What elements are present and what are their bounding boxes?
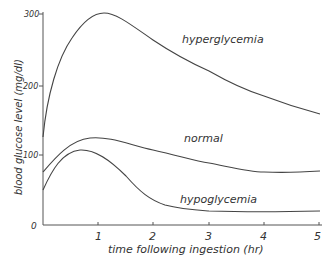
y-axis-title: blood glucose level (mg/dl) — [13, 59, 24, 195]
y-tick-200: 200 — [23, 82, 38, 91]
glucose-chart: 300 200 100 0 1 2 3 4 5 time following i… — [0, 0, 333, 268]
x-tick-4: 4 — [260, 230, 267, 243]
origin-label: 0 — [31, 221, 37, 231]
x-axis-title: time following ingestion (hr) — [108, 243, 263, 256]
normal-curve — [43, 138, 320, 173]
x-tick-5: 5 — [314, 230, 321, 243]
hyperglycemia-curve — [43, 13, 320, 137]
y-ticks — [39, 14, 43, 155]
x-tick-2: 2 — [149, 230, 156, 243]
y-tick-100: 100 — [23, 151, 38, 160]
hyperglycemia-label: hyperglycemia — [182, 33, 264, 46]
y-tick-300: 300 — [24, 10, 39, 19]
hypoglycemia-label: hypoglycemia — [180, 193, 257, 206]
normal-label: normal — [184, 132, 223, 145]
x-tick-1: 1 — [95, 230, 102, 243]
x-tick-3: 3 — [205, 230, 212, 243]
